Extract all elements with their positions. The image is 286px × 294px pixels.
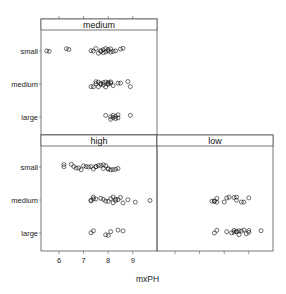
panel-frame bbox=[41, 19, 157, 135]
data-point bbox=[128, 85, 132, 89]
data-point bbox=[101, 163, 105, 167]
data-point bbox=[111, 201, 115, 205]
strip-label: low bbox=[208, 136, 222, 146]
data-point bbox=[230, 231, 234, 235]
strip-label: medium bbox=[83, 20, 115, 30]
data-point bbox=[99, 196, 103, 200]
data-point bbox=[148, 199, 152, 203]
row-label-medium: medium bbox=[11, 80, 38, 89]
data-point bbox=[91, 167, 95, 171]
data-point bbox=[237, 233, 241, 237]
row-label-large: large bbox=[21, 229, 38, 238]
data-point bbox=[212, 231, 216, 235]
data-point bbox=[119, 47, 123, 51]
panel-high: high bbox=[41, 135, 157, 251]
data-point bbox=[239, 229, 243, 233]
data-point bbox=[121, 46, 125, 50]
data-point bbox=[91, 49, 95, 53]
data-point bbox=[69, 162, 73, 166]
data-point bbox=[47, 49, 51, 53]
data-point bbox=[111, 84, 115, 88]
data-point bbox=[119, 81, 123, 85]
data-point bbox=[215, 228, 219, 232]
data-point bbox=[128, 113, 132, 117]
data-point bbox=[212, 199, 216, 203]
data-point bbox=[259, 229, 263, 233]
row-label-small: small bbox=[20, 163, 38, 172]
x-tick-label: 6 bbox=[57, 256, 61, 265]
data-point bbox=[64, 47, 68, 51]
data-point bbox=[119, 196, 123, 200]
row-label-medium: medium bbox=[11, 196, 38, 205]
data-point bbox=[133, 200, 137, 204]
data-point bbox=[104, 113, 108, 117]
points-medium bbox=[45, 46, 133, 121]
strip-label: high bbox=[90, 136, 107, 146]
data-point bbox=[121, 201, 125, 205]
x-tick-label: 7 bbox=[82, 256, 86, 265]
data-point bbox=[114, 167, 118, 171]
panel-low: low bbox=[157, 135, 273, 251]
data-point bbox=[116, 228, 120, 232]
x-tick-label: 9 bbox=[131, 256, 135, 265]
data-point bbox=[67, 48, 71, 52]
data-point bbox=[109, 47, 113, 51]
data-point bbox=[126, 80, 130, 84]
row-label-large: large bbox=[21, 113, 38, 122]
row-label-small: small bbox=[20, 47, 38, 56]
data-point bbox=[242, 200, 246, 204]
panel-frame bbox=[157, 135, 273, 251]
data-point bbox=[222, 200, 226, 204]
data-point bbox=[101, 51, 105, 55]
data-point bbox=[225, 196, 229, 200]
data-point bbox=[94, 165, 98, 169]
data-point bbox=[116, 198, 120, 202]
data-point bbox=[109, 230, 113, 234]
x-axis-label: mxPH bbox=[136, 274, 159, 284]
data-point bbox=[225, 230, 229, 234]
data-point bbox=[121, 229, 125, 233]
data-point bbox=[247, 196, 251, 200]
stripplot-figure: mediumhighlow smallmediumlargesmallmediu… bbox=[0, 0, 286, 294]
data-point bbox=[215, 200, 219, 204]
x-tick-label: 8 bbox=[106, 256, 110, 265]
points-low bbox=[210, 195, 263, 237]
data-point bbox=[116, 167, 120, 171]
data-point bbox=[126, 198, 130, 202]
data-point bbox=[227, 195, 231, 199]
data-point bbox=[94, 47, 98, 51]
data-point bbox=[215, 196, 219, 200]
data-point bbox=[235, 198, 239, 202]
data-point bbox=[82, 164, 86, 168]
data-point bbox=[242, 228, 246, 232]
panel-frame bbox=[41, 135, 157, 251]
data-point bbox=[89, 165, 93, 169]
data-point bbox=[106, 233, 110, 237]
points-high bbox=[62, 162, 152, 237]
data-point bbox=[114, 49, 118, 53]
panel-medium: medium bbox=[41, 19, 157, 135]
